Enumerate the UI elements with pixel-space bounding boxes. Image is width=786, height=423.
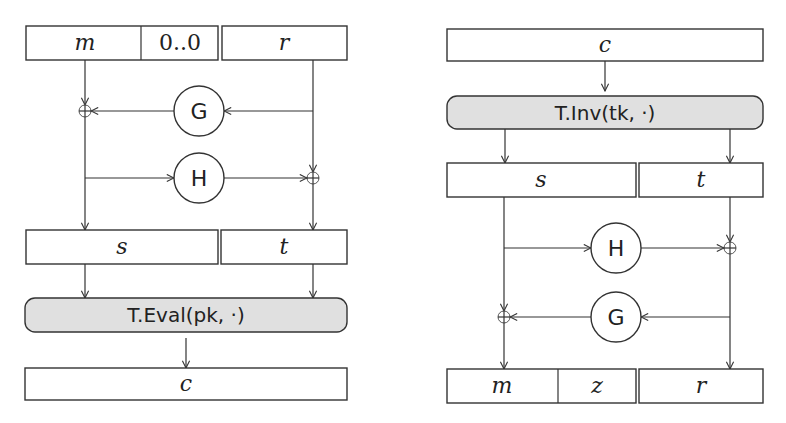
- m-z-block: [447, 369, 636, 403]
- H-label: H: [191, 166, 208, 191]
- s-label: s: [535, 167, 546, 192]
- top-row: m 0..0 r: [26, 26, 347, 60]
- c-label: c: [599, 32, 611, 57]
- encryption-diagram: m 0..0 r G H s t: [25, 26, 347, 400]
- decryption-diagram: c T.Inv(tk, ·) s t H G: [447, 29, 763, 403]
- G-label: G: [190, 99, 207, 124]
- zero-pad-label: 0..0: [159, 30, 201, 55]
- H-label: H: [608, 236, 625, 261]
- m-label: m: [492, 373, 513, 398]
- m-label: m: [75, 30, 96, 55]
- c-label: c: [180, 371, 192, 396]
- z-label: z: [590, 373, 603, 398]
- r-label: r: [279, 30, 291, 55]
- G-label: G: [607, 305, 624, 330]
- t-label: t: [280, 234, 289, 259]
- trapdoor-eval-label: T.Eval(pk, ·): [126, 303, 244, 327]
- r-label: r: [696, 373, 708, 398]
- oaep-diagrams: m 0..0 r G H s t: [0, 0, 786, 423]
- t-label: t: [697, 167, 706, 192]
- trapdoor-inv-label: T.Inv(tk, ·): [554, 101, 656, 125]
- s-label: s: [116, 234, 127, 259]
